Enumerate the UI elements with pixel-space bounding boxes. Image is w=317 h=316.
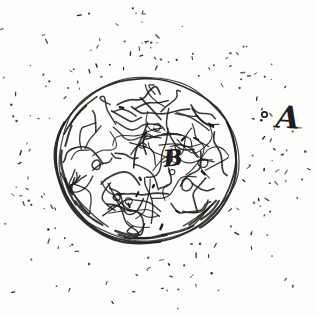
label-b: B — [161, 143, 184, 172]
label-a: A — [272, 98, 301, 135]
point-a-marker — [262, 112, 267, 117]
sketch-canvas: A B — [0, 0, 317, 316]
sketch-paper: A B — [0, 0, 317, 316]
